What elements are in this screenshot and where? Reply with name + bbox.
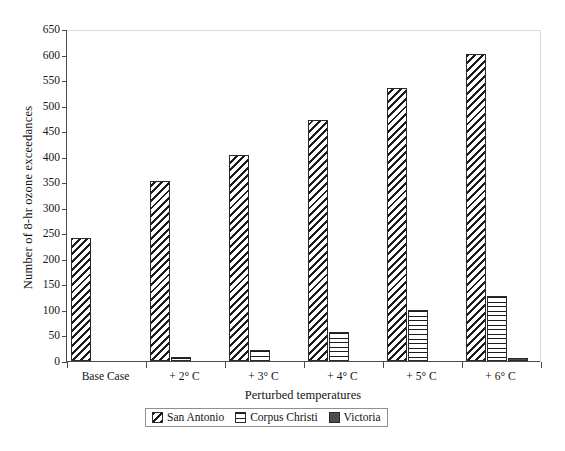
y-axis-tick <box>62 183 67 184</box>
y-axis-tick <box>62 107 67 108</box>
plot-frame-right <box>540 30 541 362</box>
y-axis-tick-labels: 050100150200250300350400450500550600650 <box>18 0 60 451</box>
y-axis-tick <box>62 56 67 57</box>
bar <box>487 296 507 361</box>
legend-swatch-icon <box>235 412 246 423</box>
y-axis-tick <box>62 336 67 337</box>
y-tick-label: 600 <box>22 50 60 62</box>
chart-legend: San AntonioCorpus ChristiVictoria <box>145 408 388 427</box>
y-axis-tick <box>62 30 67 31</box>
y-tick-label: 100 <box>22 305 60 317</box>
y-axis-tick <box>62 285 67 286</box>
y-axis-tick <box>62 234 67 235</box>
x-tick-label: + 3° C <box>224 370 303 382</box>
y-axis-tick <box>62 209 67 210</box>
y-axis-tick <box>62 311 67 312</box>
y-tick-label: 200 <box>22 254 60 266</box>
x-axis-tick <box>304 362 305 368</box>
x-axis-tick <box>67 362 68 368</box>
bar <box>508 358 528 361</box>
x-axis-tick <box>225 362 226 368</box>
x-axis-tick <box>146 362 147 368</box>
legend-item: San Antonio <box>152 411 224 423</box>
bar <box>308 120 328 361</box>
x-tick-label: + 6° C <box>461 370 540 382</box>
bar <box>171 357 191 361</box>
x-tick-label: + 4° C <box>303 370 382 382</box>
y-axis-tick <box>62 158 67 159</box>
bar <box>71 238 91 361</box>
y-tick-label: 550 <box>22 75 60 87</box>
plot-area <box>66 30 540 362</box>
legend-label: Victoria <box>344 411 381 423</box>
legend-label: Corpus Christi <box>250 411 317 423</box>
y-tick-label: 150 <box>22 279 60 291</box>
x-tick-label: Base Case <box>66 370 145 382</box>
y-axis-tick <box>62 132 67 133</box>
x-axis-title: Perturbed temperatures <box>66 388 540 403</box>
y-tick-label: 400 <box>22 152 60 164</box>
legend-label: San Antonio <box>167 411 224 423</box>
bar <box>408 310 428 361</box>
x-tick-label: + 2° C <box>145 370 224 382</box>
y-tick-label: 0 <box>22 356 60 368</box>
x-axis-tick <box>383 362 384 368</box>
bar-chart: Number of 8-hr ozone exceedances 0501001… <box>0 0 565 451</box>
y-tick-label: 300 <box>22 203 60 215</box>
bar <box>387 88 407 361</box>
y-tick-label: 650 <box>22 24 60 36</box>
bar <box>329 332 349 361</box>
y-tick-label: 500 <box>22 101 60 113</box>
x-axis-tick <box>462 362 463 368</box>
bar <box>229 155 249 361</box>
legend-item: Corpus Christi <box>235 411 317 423</box>
bar <box>466 54 486 361</box>
bar <box>150 181 170 361</box>
y-tick-label: 450 <box>22 126 60 138</box>
y-tick-label: 250 <box>22 228 60 240</box>
legend-item: Victoria <box>329 411 381 423</box>
y-axis-tick <box>62 260 67 261</box>
x-axis-tick <box>541 362 542 368</box>
y-tick-label: 350 <box>22 177 60 189</box>
legend-swatch-icon <box>329 412 340 423</box>
y-tick-label: 50 <box>22 330 60 342</box>
bar <box>250 350 270 361</box>
x-tick-label: + 5° C <box>382 370 461 382</box>
y-axis-tick <box>62 81 67 82</box>
x-axis-tick-labels: Base Case+ 2° C+ 3° C+ 4° C+ 5° C+ 6° C <box>66 370 540 388</box>
legend-swatch-icon <box>152 412 163 423</box>
